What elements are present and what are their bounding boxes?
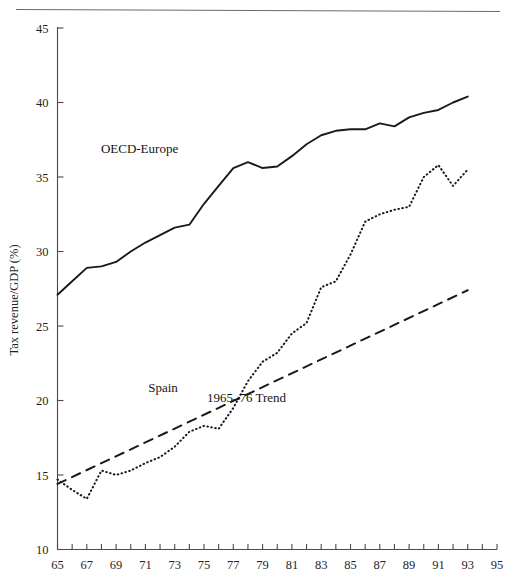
x-tick-label: 65 xyxy=(51,558,64,572)
x-tick-label: 67 xyxy=(81,558,94,572)
series-line-oecd-europe xyxy=(58,97,468,295)
y-tick-label: 30 xyxy=(36,245,49,259)
x-tick-label: 75 xyxy=(198,558,211,572)
chart-canvas: 1015202530354045656769717375777981838587… xyxy=(0,0,507,586)
series-label-trend: 1965–76 Trend xyxy=(207,390,287,405)
x-tick-label: 73 xyxy=(168,558,181,572)
x-tick-label: 89 xyxy=(403,558,416,572)
x-tick-label: 81 xyxy=(286,558,299,572)
y-tick-label: 40 xyxy=(36,96,49,110)
figure-container: 1015202530354045656769717375777981838587… xyxy=(0,0,507,586)
y-tick-label: 10 xyxy=(36,543,49,557)
series-line-spain xyxy=(58,165,468,499)
x-tick-label: 71 xyxy=(139,558,152,572)
series-line-trend xyxy=(58,290,468,484)
series-label-spain: Spain xyxy=(148,380,178,395)
y-tick-label: 35 xyxy=(36,171,49,185)
series-label-oecd-europe: OECD-Europe xyxy=(101,141,178,156)
y-tick-label: 45 xyxy=(36,22,49,36)
x-tick-label: 91 xyxy=(432,558,445,572)
x-tick-label: 93 xyxy=(461,558,474,572)
y-axis-title: Tax revenue/GDP (%) xyxy=(7,244,21,355)
x-tick-label: 69 xyxy=(110,558,123,572)
x-tick-label: 85 xyxy=(344,558,357,572)
x-tick-label: 87 xyxy=(374,558,387,572)
y-tick-label: 15 xyxy=(36,469,49,483)
x-tick-label: 79 xyxy=(256,558,269,572)
y-tick-label: 20 xyxy=(36,394,49,408)
y-tick-label: 25 xyxy=(36,320,49,334)
x-tick-label: 95 xyxy=(491,558,504,572)
top-rule-divider xyxy=(16,10,500,12)
x-tick-label: 77 xyxy=(227,558,240,572)
x-tick-label: 83 xyxy=(315,558,328,572)
